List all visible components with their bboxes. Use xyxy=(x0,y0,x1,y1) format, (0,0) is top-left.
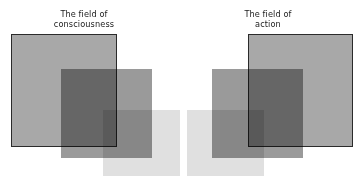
label-field-of-action: The field of action xyxy=(218,9,318,29)
right-outlined-square xyxy=(248,34,353,147)
label-field-of-consciousness: The field of consciousness xyxy=(34,9,134,29)
diagram-canvas: The field of consciousness The field of … xyxy=(0,0,363,187)
